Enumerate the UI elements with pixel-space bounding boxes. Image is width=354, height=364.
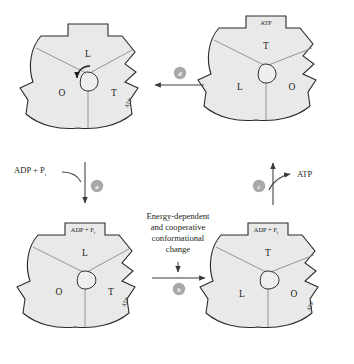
- caption-line-3: conformational: [152, 233, 205, 243]
- enzyme-state-bottom-left: L O T ADP + Pi ATP: [17, 223, 135, 327]
- step-badge-b: b: [173, 283, 185, 295]
- caption-line-1: Energy-dependent: [147, 211, 210, 221]
- caption-line-4: change: [166, 244, 191, 254]
- center-caption: Energy-dependent and cooperative conform…: [147, 211, 210, 254]
- site-label-top-left-top: L: [85, 49, 91, 59]
- caption-line-2: and cooperative: [151, 222, 206, 232]
- enzyme-state-top-left: L O T ATP: [20, 24, 138, 128]
- site-label-top-right-left: L: [237, 82, 243, 92]
- substrate-in-label: ADP + Pi: [14, 165, 47, 177]
- svg-text:b: b: [177, 286, 181, 294]
- step-badge-d: d: [174, 67, 186, 79]
- step-c-arrow: [269, 163, 290, 205]
- site-label-top-right-right: O: [289, 82, 296, 92]
- site-label-bottom-left-top: L: [82, 248, 88, 258]
- step-b-arrow: [152, 262, 205, 278]
- enzyme-state-top-right: T L O ATP: [198, 16, 316, 120]
- top-notch-label-top-right: ATP: [260, 19, 272, 26]
- site-label-bottom-right-right: O: [291, 289, 298, 299]
- site-label-bottom-left-left: O: [56, 287, 63, 297]
- step-badge-c: c: [253, 180, 265, 192]
- svg-text:c: c: [257, 183, 260, 191]
- site-label-top-left-right: T: [111, 88, 117, 98]
- step-a-arrow: [62, 162, 85, 203]
- enzyme-state-bottom-right: T L O ADP + Pi ATP: [200, 223, 318, 327]
- site-label-bottom-right-top: T: [265, 248, 271, 258]
- svg-text:d: d: [178, 70, 182, 78]
- svg-text:a: a: [95, 183, 99, 191]
- site-label-top-left-left: O: [59, 88, 66, 98]
- diagram-canvas: L O T ATP T L O ATP L O T ADP + Pi ATP: [0, 0, 354, 364]
- site-label-bottom-right-left: L: [239, 289, 245, 299]
- site-label-bottom-left-right: T: [108, 287, 114, 297]
- atp-synthase-diagram: L O T ATP T L O ATP L O T ADP + Pi ATP: [0, 0, 354, 364]
- site-label-top-right-top: T: [263, 41, 269, 51]
- product-out-label: ATP: [297, 169, 313, 179]
- step-badge-a: a: [91, 180, 103, 192]
